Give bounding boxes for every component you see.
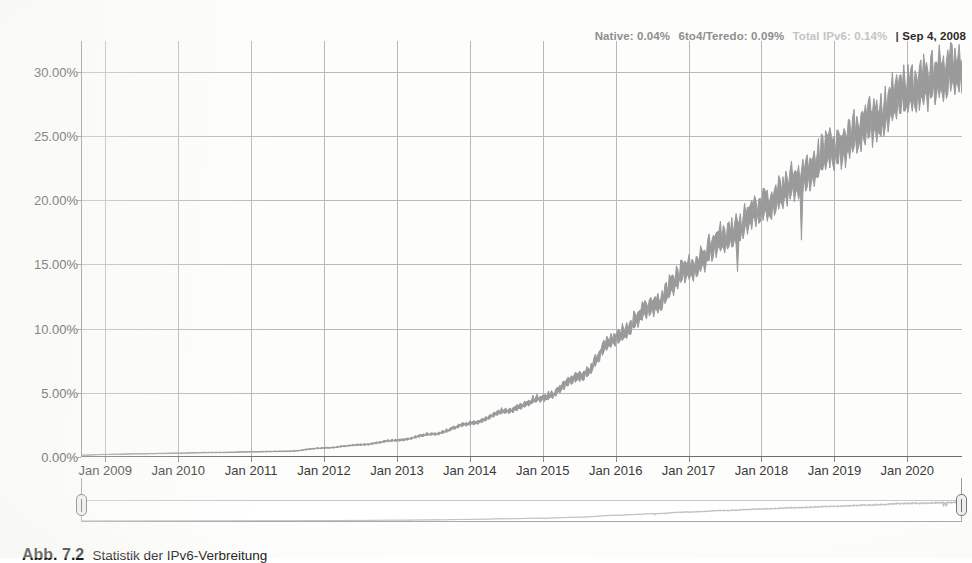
y-axis-tick-label: 10.00% (0, 321, 78, 336)
x-axis-tick-mark (834, 457, 835, 462)
legend-native-label: Native: (595, 30, 634, 42)
x-axis-tick-label: Jan 2018 (735, 463, 789, 478)
figure-caption-label: Abb. 7.2 (22, 546, 84, 563)
y-axis-tick-label: 0.00% (0, 450, 78, 465)
navigator-series (81, 500, 962, 525)
x-axis-tick-mark (907, 457, 908, 462)
x-axis-tick-mark (470, 457, 471, 462)
legend-separator: | (896, 30, 899, 42)
series-path-svg (81, 41, 962, 457)
x-axis-tick-label: Jan 2019 (808, 463, 862, 478)
navigator-left-handle[interactable] (76, 494, 87, 516)
x-axis-tick-label: Jan 2020 (881, 463, 935, 478)
figure-caption: Abb. 7.2 Statistik der IPv6-Verbreitung (22, 546, 962, 563)
y-axis-tick-label: 15.00% (0, 257, 78, 272)
range-navigator[interactable] (81, 492, 962, 522)
series-ipv6-adoption (81, 41, 962, 457)
chart-status-readout: Native: 0.04% 6to4/Teredo: 0.09% Total I… (590, 28, 966, 44)
x-axis-tick-label: Jan 2011 (225, 463, 278, 478)
x-axis-tick-mark (397, 457, 398, 462)
x-axis-tick-mark (616, 457, 617, 462)
legend-native-value: 0.04% (637, 30, 670, 42)
x-axis-tick-label: Jan 2013 (370, 463, 424, 478)
x-axis-tick-label: Jan 2009 (79, 463, 133, 478)
x-axis-tick-label: Jan 2012 (297, 463, 351, 478)
x-axis-tick-mark (543, 457, 544, 462)
navigator-right-handle[interactable] (956, 494, 967, 516)
y-axis-tick-label: 30.00% (0, 64, 78, 79)
x-axis-tick-mark (105, 457, 106, 462)
x-axis-tick-label: Jan 2010 (151, 463, 205, 478)
legend-date: Sep 4, 2008 (902, 30, 966, 42)
navigator-series-svg (81, 500, 962, 521)
legend-total-ipv6-value: 0.14% (854, 30, 887, 42)
y-axis-tick-label: 20.00% (0, 193, 78, 208)
x-axis-tick-mark (324, 457, 325, 462)
legend-6to4-teredo-value: 0.09% (751, 30, 784, 42)
y-axis-tick-label: 5.00% (0, 385, 78, 400)
y-axis-tick-mark (76, 457, 81, 458)
legend-6to4-teredo-label: 6to4/Teredo: (678, 30, 747, 42)
x-axis-tick-mark (761, 457, 762, 462)
x-axis-tick-label: Jan 2014 (443, 463, 497, 478)
x-axis-tick-mark (251, 457, 252, 462)
navigator-band (81, 501, 962, 521)
x-axis-tick-label: Jan 2015 (516, 463, 570, 478)
ipv6-adoption-band (81, 42, 962, 455)
legend-total-ipv6-label: Total IPv6: (793, 30, 851, 42)
y-axis-tick-label: 25.00% (0, 129, 78, 144)
plot-area: 0.00%5.00%10.00%15.00%20.00%25.00%30.00%… (81, 41, 962, 457)
x-axis-tick-mark (178, 457, 179, 462)
x-axis-tick-label: Jan 2016 (589, 463, 643, 478)
x-axis-tick-mark (689, 457, 690, 462)
figure-caption-text: Statistik der IPv6-Verbreitung (92, 548, 267, 563)
x-axis-tick-label: Jan 2017 (662, 463, 716, 478)
